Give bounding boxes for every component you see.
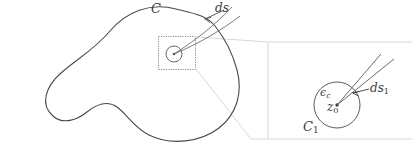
- frustum-edge-bottom: [196, 69, 251, 139]
- C1-subscript: 1: [313, 125, 319, 135]
- label-center-z0: z0: [327, 101, 339, 114]
- z0-subscript: 0: [333, 105, 338, 115]
- main-contour-curve: [46, 7, 240, 142]
- diagram-canvas: [0, 0, 412, 159]
- ds1-base: ds: [370, 81, 384, 95]
- contour-integral-diagram: C ds ϵc z0 C1 ds1: [0, 0, 412, 159]
- ds-wedge-line-lower: [174, 16, 240, 54]
- label-small-contour-C1: C1: [303, 120, 319, 135]
- label-contour-C: C: [151, 2, 161, 15]
- ds-wedge-lines: [174, 7, 240, 54]
- ds1-wedge-lines: [337, 54, 394, 105]
- label-epsilon-c: ϵc: [320, 87, 330, 100]
- epsilon-subscript: c: [326, 91, 330, 100]
- label-arc-element-ds1: ds1: [370, 82, 389, 95]
- C1-base: C: [303, 119, 313, 134]
- ds1-subscript: 1: [384, 86, 389, 96]
- label-arc-element-ds: ds: [215, 2, 229, 14]
